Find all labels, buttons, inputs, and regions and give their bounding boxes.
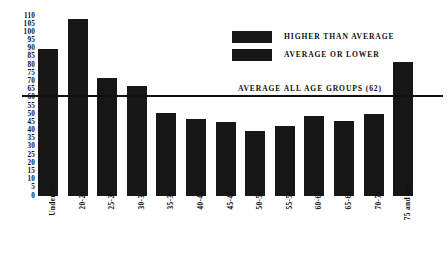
y-axis-tick-label: 40 [3, 127, 35, 134]
bar [156, 113, 176, 196]
bar [216, 122, 236, 196]
y-axis-tick-label: 15 [3, 168, 35, 175]
x-axis-tick-label: 65-69 [334, 199, 354, 255]
bar [186, 119, 206, 196]
x-axis-tick-label: 20-24 [68, 199, 88, 255]
legend-item-label: AVERAGE OR LOWER [284, 50, 380, 59]
x-axis-tick-text: 55-59 [285, 191, 294, 210]
y-axis: 1101051009590858075706560555045403530252… [0, 0, 38, 256]
y-axis-tick-label: 80 [3, 62, 35, 69]
x-axis-tick-label: 30-34 [127, 199, 147, 255]
x-axis-tick-text: 30-34 [137, 191, 146, 210]
average-line-caption: AVERAGE ALL AGE GROUPS (62) [238, 84, 382, 93]
y-axis-tick-label: 30 [3, 143, 35, 150]
x-axis-tick-text: 50-54 [255, 191, 264, 210]
y-axis-tick-label: 10 [3, 176, 35, 183]
x-axis-tick-text: 35-39 [166, 191, 175, 210]
y-axis-tick-label: 90 [3, 45, 35, 52]
bar [364, 114, 384, 196]
bar [127, 86, 147, 196]
bar [393, 62, 413, 196]
y-axis-tick-label: 95 [3, 37, 35, 44]
y-axis-tick-label: 45 [3, 119, 35, 126]
legend-item-higher-than-average: HIGHER THAN AVERAGE [232, 30, 442, 48]
legend: HIGHER THAN AVERAGE AVERAGE OR LOWER [232, 30, 442, 66]
y-axis-tick-label: 105 [3, 21, 35, 28]
y-axis-tick-label: 100 [3, 29, 35, 36]
y-axis-tick-label: 70 [3, 78, 35, 85]
x-axis-tick-label: Under 20 [38, 199, 58, 255]
bar [275, 126, 295, 196]
legend-item-average-or-lower: AVERAGE OR LOWER [232, 48, 442, 66]
bar [245, 131, 265, 196]
legend-item-label: HIGHER THAN AVERAGE [284, 32, 395, 41]
bar [38, 49, 58, 196]
x-axis-tick-label: 40-44 [186, 199, 206, 255]
average-reference-line [22, 95, 443, 97]
y-axis-tick-label: 75 [3, 70, 35, 77]
y-axis-tick-label: 55 [3, 103, 35, 110]
legend-swatch-icon [232, 31, 272, 43]
legend-swatch-icon [232, 49, 272, 61]
y-axis-tick-label: 5 [3, 184, 35, 191]
y-axis-tick-label: 0 [3, 193, 35, 200]
x-axis-tick-label: 45-49 [216, 199, 236, 255]
x-axis-tick-label: 35-39 [156, 199, 176, 255]
y-axis-tick-label: 65 [3, 86, 35, 93]
x-axis-tick-text: 20-24 [78, 191, 87, 210]
y-axis-tick-label: 50 [3, 111, 35, 118]
y-axis-tick-label: 85 [3, 53, 35, 60]
x-axis-tick-text: 25-29 [107, 191, 116, 210]
y-axis-tick-label: 20 [3, 160, 35, 167]
x-axis-tick-text: 70-74 [374, 191, 383, 210]
x-axis-tick-label: 60-64 [304, 199, 324, 255]
bar-chart-figure: 1101051009590858075706560555045403530252… [0, 0, 447, 256]
x-axis-tick-label: 25-29 [97, 199, 117, 255]
x-axis-tick-label: 55-59 [275, 199, 295, 255]
y-axis-tick-label: 110 [3, 13, 35, 20]
y-axis-tick-label: 25 [3, 152, 35, 159]
x-axis-tick-text: 60-64 [314, 191, 323, 210]
x-axis: Under 2020-2425-2930-3435-3940-4445-4950… [38, 199, 442, 256]
x-axis-tick-text: 75 and over [403, 180, 412, 220]
x-axis-tick-label: 70-74 [364, 199, 384, 255]
x-axis-tick-label: 50-54 [245, 199, 265, 255]
bar [304, 116, 324, 196]
x-axis-tick-text: 65-69 [344, 191, 353, 210]
bar [334, 121, 354, 196]
x-axis-tick-text: Under 20 [48, 184, 57, 216]
bar [68, 19, 88, 196]
x-axis-tick-label: 75 and over [393, 199, 413, 255]
x-axis-tick-text: 40-44 [196, 191, 205, 210]
y-axis-tick-label: 35 [3, 135, 35, 142]
x-axis-tick-text: 45-49 [226, 191, 235, 210]
